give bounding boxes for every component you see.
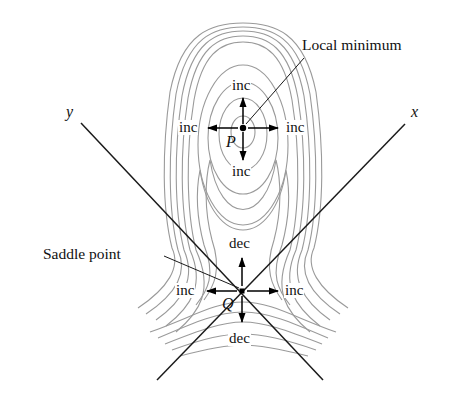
x-axis-label: x [411, 104, 418, 120]
point-P-marker [240, 125, 246, 131]
P-right-label: inc [285, 120, 305, 135]
lower-saddle-contours [150, 302, 336, 356]
x-axis-line [157, 124, 405, 380]
Q-right-label: inc [284, 283, 304, 298]
Q-up-label: dec [228, 236, 251, 251]
inner-saddle-contours [196, 160, 290, 305]
point-P-label: P [226, 134, 236, 150]
contour-diagram: Local minimum Saddle point y x P Q inc i… [0, 0, 451, 409]
Q-down-label: dec [228, 331, 251, 346]
y-axis-label: y [66, 104, 73, 120]
P-up-label: inc [231, 78, 251, 93]
point-Q-marker [240, 289, 245, 294]
Q-left-label: inc [175, 283, 195, 298]
P-left-label: inc [178, 120, 198, 135]
saddle-point-label: Saddle point [43, 246, 121, 262]
diagram-canvas [0, 0, 451, 409]
P-down-label: inc [231, 164, 251, 179]
point-Q-label: Q [222, 296, 234, 312]
local-minimum-label: Local minimum [302, 37, 401, 53]
